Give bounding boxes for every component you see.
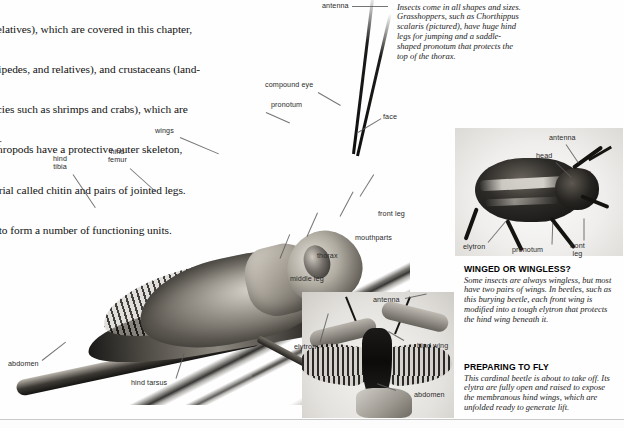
label-hind-tarsus: hind tarsus	[131, 379, 167, 387]
label-cardinal-hind-wing: hind wing	[417, 342, 448, 350]
label-beetle-antenna: antenna	[549, 134, 576, 142]
label-front-leg: front leg	[378, 210, 405, 218]
leader-line	[352, 6, 388, 7]
label-hind-femur: hind femur	[108, 148, 127, 164]
label-beetle-pronotum: pronotum	[512, 246, 543, 254]
beetle-leg	[463, 207, 478, 240]
label-cardinal-abdomen: abdomen	[414, 391, 445, 399]
leader-line	[584, 219, 585, 241]
label-wings: wings	[155, 127, 174, 135]
body-line: and relatives), which are covered in thi…	[0, 23, 242, 36]
label-pronotum: pronotum	[271, 101, 302, 109]
label-beetle-head: head	[536, 152, 552, 160]
caption-diversity-of-form: DIVERSITY OF FORM Insects come in all sh…	[397, 0, 524, 62]
caption-heading: PREPARING TO FLY	[464, 362, 616, 372]
body-line: , centipedes, and relatives), and crusta…	[0, 63, 242, 76]
caption-heading: DIVERSITY OF FORM	[397, 0, 524, 1]
label-beetle-elytron: elytron	[463, 243, 485, 251]
label-cardinal-elytron: elytron	[294, 343, 316, 351]
caption-winged-or-wingless: WINGED OR WINGLESS? Some insects are alw…	[464, 264, 616, 325]
label-antenna: antenna	[322, 2, 349, 10]
beetle-head	[555, 168, 599, 210]
caption-text: This cardinal beetle is about to take of…	[464, 374, 616, 414]
label-mouthparts: mouthparts	[355, 234, 392, 242]
cardinal-elytron	[380, 300, 450, 334]
cardinal-perch	[356, 388, 412, 418]
label-face: face	[383, 113, 397, 121]
label-middle-leg: middle leg	[290, 275, 324, 283]
page-footer-area	[0, 420, 624, 428]
label-cardinal-antenna: antenna	[373, 296, 400, 304]
caption-text: Some insects are always wingless, but mo…	[464, 276, 616, 326]
label-beetle-front-leg: front leg	[570, 242, 585, 258]
label-hind-tibia: hind tibia	[53, 155, 67, 171]
label-compound-eye: compound eye	[265, 81, 313, 89]
book-page: and relatives), which are covered in thi…	[0, 0, 624, 428]
label-abdomen: abdomen	[8, 360, 39, 368]
caption-preparing-to-fly: PREPARING TO FLY This cardinal beetle is…	[464, 362, 616, 413]
burying-beetle-photo	[455, 128, 623, 256]
caption-heading: WINGED OR WINGLESS?	[464, 264, 616, 274]
caption-text: Insects come in all shapes and sizes. Gr…	[397, 3, 524, 62]
page-bottom-rule	[0, 419, 624, 420]
leader-line	[318, 92, 341, 106]
label-thorax: thorax	[317, 252, 338, 260]
